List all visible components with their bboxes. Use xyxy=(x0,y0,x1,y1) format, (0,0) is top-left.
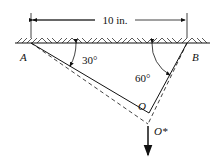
angle-label-A: 30° xyxy=(82,54,97,66)
angle-arc-A xyxy=(70,43,76,66)
member-BO xyxy=(149,43,187,113)
dimension-label: 10 in. xyxy=(102,14,127,26)
point-label-O-star: O* xyxy=(154,125,168,137)
point-label-O: O xyxy=(138,100,146,112)
ground-support xyxy=(15,38,210,43)
point-label-A: A xyxy=(19,51,27,63)
point-label-B: B xyxy=(192,51,199,63)
angle-arc-B xyxy=(152,43,170,75)
diagram-canvas: 10 in. A B O O* 30° 60° xyxy=(0,0,220,160)
angle-label-B: 60° xyxy=(135,72,150,84)
